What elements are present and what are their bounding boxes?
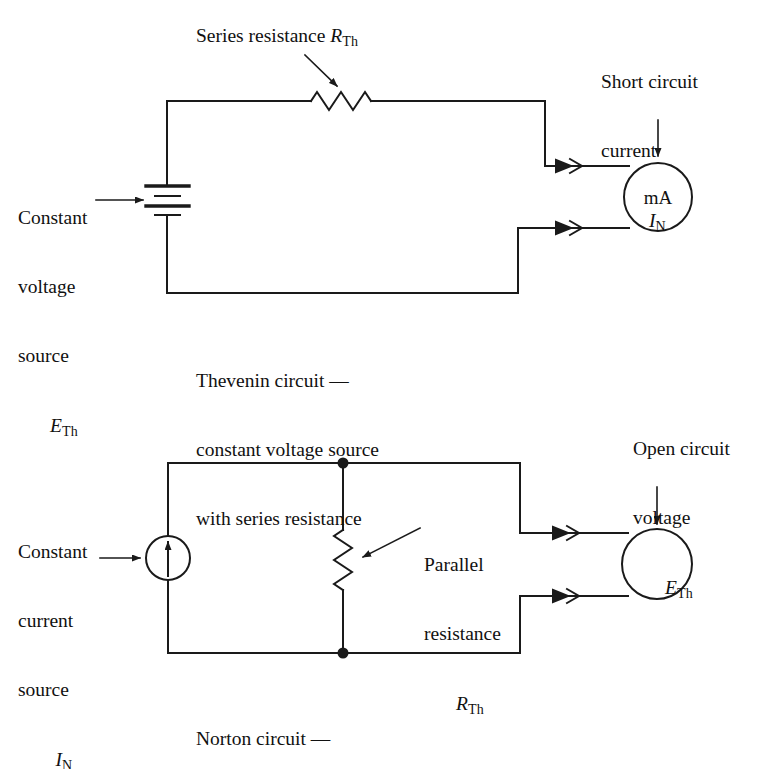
label-parallel-resistance-line1: Parallel [424,553,516,576]
caption-thevenin-line3: with series resistance [196,507,379,530]
label-constant-voltage-source-line2: voltage [18,275,110,298]
label-constant-current-source-line1: Constant [18,540,110,563]
current-direction-markers-bottom [553,526,579,603]
label-constant-voltage-source: Constant voltage source ETh [18,160,110,489]
chevron-filled-top-lower [556,222,571,234]
caption-norton: Norton circuit — constant current source… [196,681,377,769]
current-direction-markers-top [556,159,582,235]
label-constant-current-source: Constant current source IN [18,494,110,769]
label-open-circuit-voltage-symbol: E [665,577,677,598]
label-open-circuit-voltage-line2: voltage [633,506,730,529]
label-open-circuit-voltage: Open circuit voltage ETh [633,391,730,651]
label-constant-voltage-source-symbol-wrap: ETh [18,414,110,443]
thevenin-circuit-wiring [146,92,629,293]
label-constant-voltage-source-subscript: Th [62,423,78,439]
label-series-resistance: Series resistance RTh [196,24,358,53]
label-parallel-resistance-line2: resistance [424,622,516,645]
label-constant-voltage-source-line1: Constant [18,206,110,229]
label-constant-current-source-subscript: N [62,757,72,769]
pointer-series-resistance [305,55,337,86]
label-short-circuit-current: Short circuit current IN [601,24,714,284]
junction-dot-bottom [338,648,349,659]
circuit-figure: Series resistance RTh Constant voltage s… [0,0,766,769]
label-constant-current-source-symbol-wrap: IN [18,748,110,769]
chevron-filled-bottom-upper [553,527,568,539]
label-series-resistance-text: Series resistance [196,25,330,46]
label-series-resistance-symbol: R [330,25,342,46]
label-series-resistance-subscript: Th [342,33,358,49]
label-parallel-resistance-symbol: R [456,693,468,714]
caption-thevenin-line1: Thevenin circuit — [196,369,379,392]
caption-thevenin: Thevenin circuit — constant voltage sour… [196,323,379,576]
label-open-circuit-voltage-subscript: Th [677,585,693,601]
series-resistor-symbol [311,92,371,110]
label-open-circuit-voltage-line1: Open circuit [633,437,730,460]
caption-thevenin-line2: constant voltage source [196,438,379,461]
label-parallel-resistance-subscript: Th [468,701,484,717]
label-constant-voltage-source-symbol: E [50,415,62,436]
label-short-circuit-current-symbol-wrap: IN [601,209,714,238]
label-constant-current-source-line3: source [18,678,110,701]
caption-norton-line1: Norton circuit — [196,727,377,750]
label-parallel-resistance: Parallel resistance RTh [424,507,516,767]
label-short-circuit-current-line1: Short circuit [601,70,714,93]
milliammeter-label: mA [628,187,688,209]
label-constant-voltage-source-line3: source [18,344,110,367]
chevron-filled-top-upper [556,160,571,172]
label-short-circuit-current-subscript: N [656,218,666,234]
label-constant-current-source-line2: current [18,609,110,632]
label-open-circuit-voltage-symbol-wrap: ETh [633,576,725,605]
label-short-circuit-current-line2: current [601,139,714,162]
label-parallel-resistance-symbol-wrap: RTh [424,692,516,721]
chevron-filled-bottom-lower [553,590,568,602]
